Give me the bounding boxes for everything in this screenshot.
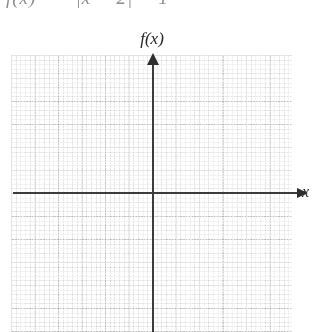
x-axis-label: x [302,183,309,201]
function-formula-text: f(x) = −|x − 2| − 1 [6,0,169,9]
formula-strip: f(x) = −|x − 2| − 1 [0,0,320,13]
x-axis-line [13,192,301,194]
figure-canvas: f(x) = −|x − 2| − 1 f(x) x [0,0,320,332]
y-axis-label: f(x) [124,29,180,49]
y-axis-arrow-icon [147,53,159,65]
y-axis-line [152,60,154,332]
